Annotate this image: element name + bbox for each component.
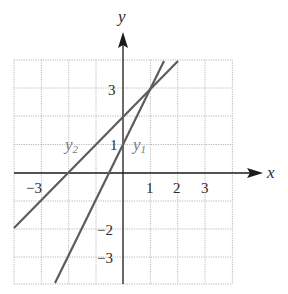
label-y2: y2 <box>63 135 79 155</box>
tick-x-neg3: −3 <box>26 180 42 196</box>
label-y1: y1 <box>131 135 146 155</box>
tick-y-neg3: −3 <box>97 250 113 266</box>
tick-x-1: 1 <box>146 180 154 196</box>
tick-x-2: 2 <box>173 180 181 196</box>
tick-y-3: 3 <box>108 82 116 98</box>
axes <box>14 42 254 284</box>
tick-y-1: 1 <box>110 137 118 153</box>
graph: x y −3 1 2 3 3 1 −2 −3 y2 y1 <box>0 0 288 294</box>
tick-y-neg2: −2 <box>97 222 113 238</box>
tick-x-3: 3 <box>201 180 209 196</box>
y-axis-label: y <box>116 7 126 26</box>
x-axis-label: x <box>266 163 275 182</box>
